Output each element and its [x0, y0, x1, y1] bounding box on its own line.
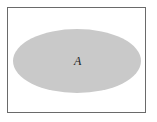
venn-diagram: A	[0, 0, 157, 122]
set-a-label: A	[73, 54, 82, 68]
